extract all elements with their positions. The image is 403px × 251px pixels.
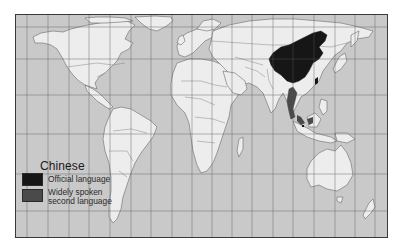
legend-label-widely-spoken-line2: second language [48, 197, 112, 206]
widely-spoken-swatch [22, 189, 43, 202]
official-language-swatch [22, 173, 43, 186]
world-map: Chinese Official language Widely spoken … [15, 14, 388, 238]
singapore-official [302, 125, 304, 127]
legend-label-widely-spoken: Widely spoken second language [48, 188, 112, 205]
legend-label-official: Official language [48, 175, 110, 184]
legend-title: Chinese [40, 159, 85, 173]
legend-label-official-text: Official language [48, 174, 110, 184]
